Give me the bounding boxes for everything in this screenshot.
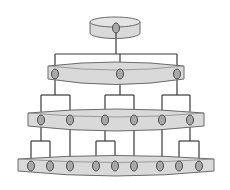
level-1-disc — [48, 62, 184, 85]
level-3-node — [93, 161, 100, 171]
level-3-node — [157, 161, 164, 171]
level-2-node — [38, 115, 45, 125]
connector-lines — [31, 33, 199, 162]
level-3-node — [112, 161, 119, 171]
level-2-node — [131, 115, 138, 125]
level-2-disc — [28, 109, 204, 131]
level-3-node — [176, 161, 183, 171]
hierarchy-diagram — [0, 0, 230, 190]
level-3-node — [28, 161, 35, 171]
level-2-node — [67, 115, 74, 125]
level-3-node — [67, 161, 74, 171]
level-2-node — [102, 115, 109, 125]
level-1-node — [174, 69, 181, 79]
level-3-node — [131, 161, 138, 171]
level-1-node — [117, 69, 124, 79]
level-2-node — [159, 115, 166, 125]
level-2-node — [187, 115, 194, 125]
level-1-node — [52, 69, 59, 79]
root-node — [113, 23, 120, 33]
level-3-node — [196, 161, 203, 171]
level-3-disc — [18, 156, 214, 177]
root-disc — [90, 17, 140, 39]
level-3-node — [47, 161, 54, 171]
